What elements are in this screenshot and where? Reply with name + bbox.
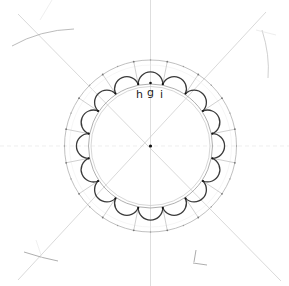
tick-top-right (256, 30, 276, 35)
scallop-arc (81, 158, 98, 182)
scallop-arc (163, 77, 187, 94)
compass-arc-bottom-left (24, 252, 58, 261)
outer-mid-point (229, 178, 230, 179)
outer-mid-point (117, 66, 118, 67)
outer-point (166, 229, 168, 231)
outer-point (78, 193, 80, 195)
label-g: g (147, 86, 154, 99)
outer-mid-point (150, 231, 151, 232)
outer-point (197, 217, 199, 219)
scallop-junction-point (137, 83, 139, 85)
scallop-junction-point (114, 197, 116, 199)
outer-mid-point (183, 225, 184, 226)
outer-mid-point (70, 178, 71, 179)
outer-mid-point (211, 206, 212, 207)
scallop-arc (115, 77, 139, 94)
compass-arc-bottom-right (193, 263, 207, 265)
outer-point (133, 61, 135, 63)
construction-lines (0, 0, 289, 286)
scallop-arc (203, 110, 220, 134)
scallop-junction-point (211, 133, 213, 135)
outer-point (234, 162, 236, 164)
scallop-ring-diagram: h g i (0, 0, 289, 286)
center-point (149, 144, 152, 147)
label-i: i (160, 88, 163, 101)
outer-point (78, 97, 80, 99)
point-labels: h g i (136, 86, 163, 101)
outer-mid-point (89, 84, 90, 85)
scallop-arc (203, 158, 220, 182)
scallop-junction-point (162, 207, 164, 209)
outer-mid-point (117, 225, 118, 226)
outer-point (166, 61, 168, 63)
outer-mid-point (70, 112, 71, 113)
scallop-junction-point (97, 110, 99, 112)
outer-point (133, 229, 135, 231)
outer-point (65, 162, 67, 164)
scallop-junction-point (211, 157, 213, 159)
scallop-arc (81, 110, 98, 134)
scallop-junction-point (202, 180, 204, 182)
point-g (149, 82, 152, 85)
outer-mid-point (229, 112, 230, 113)
scallop-junction-point (162, 83, 164, 85)
scallop-junction-point (88, 157, 90, 159)
label-h: h (136, 88, 143, 101)
outer-mid-point (150, 59, 151, 60)
outer-point (197, 74, 199, 76)
outer-mid-point (64, 145, 65, 146)
scallop-arc (163, 198, 187, 215)
compass-arc-top-left (12, 29, 74, 46)
tick-top-left (40, 0, 52, 20)
outer-mid-point (89, 206, 90, 207)
scallop-junction-point (202, 110, 204, 112)
outer-mid-point (183, 66, 184, 67)
outer-mid-point (211, 84, 212, 85)
scallop-arc (115, 198, 139, 215)
scallop-junction-point (184, 197, 186, 199)
scallop-junction-point (137, 207, 139, 209)
outer-point (234, 128, 236, 130)
scallop-junction-point (97, 180, 99, 182)
compass-arc-top-right (262, 30, 268, 78)
tick-bottom-right (194, 250, 196, 262)
scallop-junction-point (184, 93, 186, 95)
outer-point (102, 74, 104, 76)
tick-bottom-left (36, 240, 42, 258)
outer-point (65, 128, 67, 130)
scallop-junction-point (114, 93, 116, 95)
diagonal-line-down (18, 14, 281, 281)
outer-point (102, 217, 104, 219)
scallop-junction-point (88, 133, 90, 135)
outer-point (221, 97, 223, 99)
outer-point (221, 193, 223, 195)
outer-mid-point (236, 145, 237, 146)
